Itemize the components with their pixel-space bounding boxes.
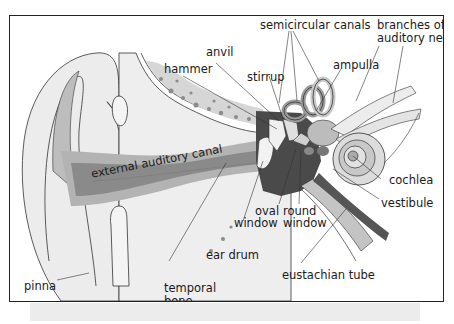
label-cochlea: cochlea [389, 174, 433, 186]
label-temporal: temporal [164, 282, 216, 294]
label-stirrup: stirrup [247, 71, 285, 83]
diagram-frame: semicircular canals branches of auditory… [9, 15, 444, 302]
frame-shadow [30, 303, 420, 321]
label-ampulla: ampulla [333, 59, 379, 71]
cochlea-shape [333, 133, 385, 185]
label-anvil: anvil [206, 46, 234, 58]
label-round-window: window [283, 217, 327, 229]
label-pinna: pinna [24, 280, 56, 292]
label-temporal-bone: bone [164, 295, 193, 302]
vestibule-shape [307, 120, 339, 146]
label-branches-of: branches of [377, 19, 444, 31]
label-semicircular-canals: semicircular canals [260, 19, 371, 31]
label-eustachian-tube: eustachian tube [282, 269, 375, 281]
label-auditory-nerve: auditory nerve [377, 32, 444, 44]
label-vestibule: vestibule [381, 197, 433, 209]
label-ear-drum: ear drum [206, 249, 259, 261]
label-oval-window: window [234, 217, 278, 229]
label-hammer: hammer [164, 63, 213, 75]
